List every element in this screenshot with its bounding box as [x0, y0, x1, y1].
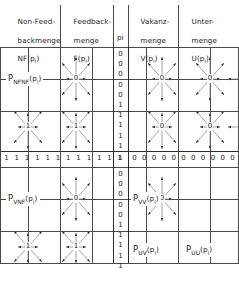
quadrant-arg-open: (p: [25, 194, 33, 203]
quadrant-arg-close: ): [156, 194, 159, 203]
digit-cell: 1: [84, 154, 93, 163]
quadrant-arg-close: ): [209, 245, 212, 254]
digit-cell: 0: [116, 201, 125, 210]
digit-cell: 0: [199, 154, 208, 163]
digit-cell: 0: [150, 154, 159, 163]
digit-cell: 0: [116, 70, 125, 79]
quadrant-label-puv: PUV(pi): [131, 243, 161, 257]
digit-cell: 1: [116, 111, 125, 120]
digit-cell: 0: [159, 154, 168, 163]
node-label: 0: [159, 122, 165, 131]
digit-cell: 1: [116, 142, 125, 151]
quadrant-label-pvnf: PVNF(pi): [6, 192, 40, 206]
quadrant-sub: UU: [191, 249, 200, 256]
digit-cell: 0: [116, 211, 125, 220]
node-label: 1: [25, 122, 31, 131]
quadrant-arg-open: (p: [200, 245, 208, 254]
digit-cell: 1: [116, 121, 125, 130]
digit-cell: 0: [116, 50, 125, 59]
digit-cell: 1: [116, 262, 125, 271]
quadrant-arg-close: ): [38, 74, 41, 83]
digit-cell: 1: [64, 154, 73, 163]
digit-cell: 0: [130, 154, 139, 163]
node-label: 0: [73, 194, 79, 203]
quadrant-arg-open: (p: [29, 74, 37, 83]
node-label: 1: [73, 122, 79, 131]
digit-cell: 1: [116, 101, 125, 110]
digit-cell: 1: [2, 154, 11, 163]
quadrant-arg-open: (p: [147, 245, 155, 254]
digit-cell: 1: [116, 252, 125, 261]
quadrant-arg-close: ): [35, 194, 38, 203]
quadrant-arg-close: ): [156, 245, 159, 254]
digit-cell: 0: [169, 154, 178, 163]
node-label: 0: [159, 74, 165, 83]
digit-cell: 0: [116, 81, 125, 90]
digit-cell: 0: [116, 60, 125, 69]
digit-cell: 0: [116, 91, 125, 100]
digit-cell: 1: [116, 154, 125, 163]
node-label: 0: [207, 122, 213, 131]
digit-cell: 0: [189, 154, 198, 163]
digit-cell: 1: [33, 154, 42, 163]
digit-cell: 1: [43, 154, 52, 163]
digit-cell: 0: [116, 170, 125, 179]
node-label: 0: [73, 74, 79, 83]
digit-cell: 1: [23, 154, 32, 163]
digit-cell: 0: [228, 154, 237, 163]
quadrant-sub: VNF: [13, 198, 25, 205]
digit-cell: 0: [116, 180, 125, 189]
digit-cell: 1: [12, 154, 21, 163]
digit-cell: 1: [116, 132, 125, 141]
quadrant-sub: UV: [138, 249, 147, 256]
quadrant-label-pnfnf: PNFNF(pi): [6, 72, 43, 86]
quadrant-sub: NFNF: [13, 78, 29, 85]
digit-cell: 0: [140, 154, 149, 163]
quadrant-label-puu: PUU(pi): [184, 243, 214, 257]
digit-cell: 0: [179, 154, 188, 163]
digit-cell: 1: [116, 241, 125, 250]
node-label: 0: [207, 74, 213, 83]
digit-cell: 0: [208, 154, 217, 163]
digit-cell: 1: [116, 231, 125, 240]
quadrant-label-pvv: PVV(pi): [131, 192, 161, 206]
digit-cell: 0: [116, 190, 125, 199]
node-label: 1: [25, 242, 31, 251]
digit-cell: 1: [116, 221, 125, 230]
digit-cell: 1: [74, 154, 83, 163]
digit-cell: 1: [105, 154, 114, 163]
transition-matrix-figure: Non-Feed- backmenge NF(pi) Feedback- men…: [0, 0, 239, 285]
digit-cell: 1: [95, 154, 104, 163]
node-label: 1: [73, 242, 79, 251]
digit-cell: 1: [54, 154, 63, 163]
digit-cell: 0: [218, 154, 227, 163]
